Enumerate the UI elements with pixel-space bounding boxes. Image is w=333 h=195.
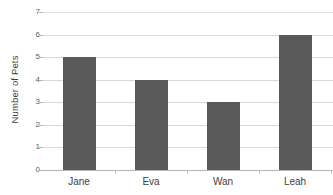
- x-tick-label-wan: Wan: [213, 176, 233, 188]
- y-axis-tick-labels: 01234567: [26, 0, 40, 178]
- value-axis-tick-3: [39, 102, 43, 103]
- bar-eva: [135, 80, 168, 170]
- category-axis-tick-0: [115, 171, 116, 174]
- value-axis-tick-7: [39, 12, 43, 13]
- y-tick-label-1: 1: [26, 143, 40, 151]
- y-tick-label-5: 5: [26, 53, 40, 61]
- value-axis-tick-4: [39, 80, 43, 81]
- bar-jane: [63, 57, 96, 170]
- bar-wan: [207, 102, 240, 170]
- category-axis-tick-3: [331, 171, 332, 174]
- x-axis-tick-labels: JaneEvaWanLeah: [43, 176, 333, 192]
- bar-chart-screenshot: Number of Pets 01234567 JaneEvaWanLeah: [0, 0, 333, 195]
- value-axis-tick-1: [39, 147, 43, 148]
- category-axis-tick-1: [187, 171, 188, 174]
- gridline-7: [43, 12, 333, 13]
- value-axis-tick-5: [39, 57, 43, 58]
- y-axis-title: Number of Pets: [0, 0, 28, 178]
- y-axis-title-text: Number of Pets: [9, 55, 20, 123]
- y-tick-label-4: 4: [26, 76, 40, 84]
- value-axis-tick-2: [39, 125, 43, 126]
- x-tick-label-jane: Jane: [68, 176, 90, 188]
- y-tick-label-7: 7: [26, 8, 40, 16]
- x-tick-label-leah: Leah: [284, 176, 306, 188]
- bar-leah: [279, 35, 312, 170]
- y-tick-label-3: 3: [26, 98, 40, 106]
- value-axis-tick-6: [39, 35, 43, 36]
- value-axis-tick-0: [39, 170, 43, 171]
- x-tick-label-eva: Eva: [142, 176, 159, 188]
- plot-area: [43, 12, 333, 170]
- category-axis-tick-2: [259, 171, 260, 174]
- category-axis-line: [43, 170, 333, 171]
- y-tick-label-2: 2: [26, 121, 40, 129]
- y-tick-label-6: 6: [26, 31, 40, 39]
- y-tick-label-0: 0: [26, 166, 40, 174]
